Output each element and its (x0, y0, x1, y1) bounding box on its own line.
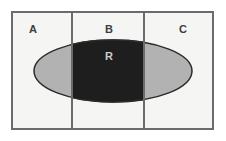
region-diagram-svg: A B C R (0, 0, 226, 141)
region-label-r: R (105, 50, 113, 62)
column-label-c: C (179, 23, 187, 35)
column-label-a: A (29, 23, 37, 35)
column-label-b: B (105, 23, 113, 35)
diagram-canvas: A B C R (0, 0, 226, 141)
